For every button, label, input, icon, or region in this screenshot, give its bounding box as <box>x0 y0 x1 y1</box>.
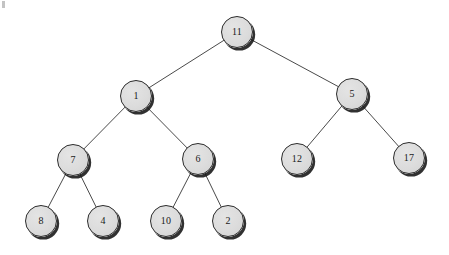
tree-node-label: 10 <box>161 216 171 226</box>
tree-node-10[interactable]: 10 <box>150 205 182 237</box>
tree-node-11[interactable]: 11 <box>221 16 253 48</box>
tree-node-12[interactable]: 12 <box>281 143 313 175</box>
tree-node-2[interactable]: 2 <box>212 205 244 237</box>
tree-node-17[interactable]: 17 <box>393 142 425 174</box>
tree-node-label: 17 <box>404 153 414 163</box>
tree-node-label: 12 <box>292 154 302 164</box>
tree-node-label: 11 <box>232 27 242 37</box>
tree-node-label: 5 <box>349 89 354 99</box>
speck-corner <box>2 1 5 8</box>
tree-node-label: 6 <box>195 154 200 164</box>
tree-edge-n11-to-n5 <box>237 32 352 94</box>
tree-node-1[interactable]: 1 <box>120 80 152 112</box>
tree-node-label: 7 <box>70 155 75 165</box>
tree-node-4[interactable]: 4 <box>87 205 119 237</box>
tree-node-label: 4 <box>100 216 105 226</box>
tree-node-5[interactable]: 5 <box>336 78 368 110</box>
tree-node-label: 8 <box>38 216 43 226</box>
tree-node-6[interactable]: 6 <box>182 143 214 175</box>
tree-node-label: 1 <box>133 91 138 101</box>
tree-node-7[interactable]: 7 <box>57 144 89 176</box>
binary-tree-diagram: 111576121784102 <box>0 0 449 255</box>
tree-node-8[interactable]: 8 <box>25 205 57 237</box>
tree-edge-n11-to-n1 <box>136 32 237 96</box>
tree-node-label: 2 <box>225 216 230 226</box>
